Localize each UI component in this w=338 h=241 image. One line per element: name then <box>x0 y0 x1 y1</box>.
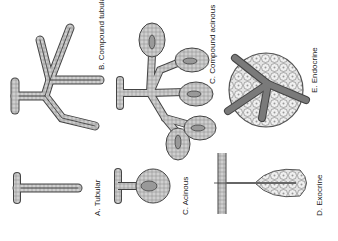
endocrine-gland <box>228 53 306 127</box>
acinous-gland <box>118 169 170 203</box>
compound-acinous-gland <box>120 23 216 160</box>
exocrine-gland <box>214 153 307 214</box>
label-tubular: A. Tubular <box>93 180 102 216</box>
compound-tubular-gland <box>15 28 100 126</box>
gland-diagram <box>0 0 338 241</box>
tubular-gland <box>17 176 78 200</box>
label-exocrine: D. Exocrine <box>315 175 324 216</box>
label-acinous: C. Acinous <box>181 177 190 215</box>
label-compound-acinous: C. Compound acinous <box>208 5 217 84</box>
label-endocrine: E. Endocrine <box>310 47 319 93</box>
label-compound-tubular: B. Compound tubular <box>97 0 106 70</box>
